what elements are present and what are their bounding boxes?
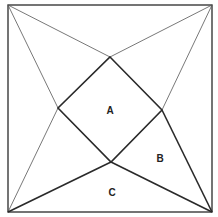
line-bl-to-left [8,108,58,212]
line-tr-to-right [162,5,212,110]
line-bl-to-bottom [8,162,111,212]
line-br-to-right [162,110,212,212]
line-tl-to-top [8,5,110,57]
line-tl-to-left [8,5,58,108]
label-a: A [106,105,113,116]
geometry-diagram: A B C [0,0,218,217]
label-c: C [108,187,115,198]
line-br-to-bottom [111,162,212,212]
label-b: B [156,153,163,164]
line-tr-to-top [110,5,212,57]
